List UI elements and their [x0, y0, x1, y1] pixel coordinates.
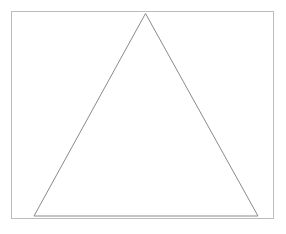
triangle-figure: [0, 0, 286, 234]
figure-canvas: [0, 0, 286, 234]
